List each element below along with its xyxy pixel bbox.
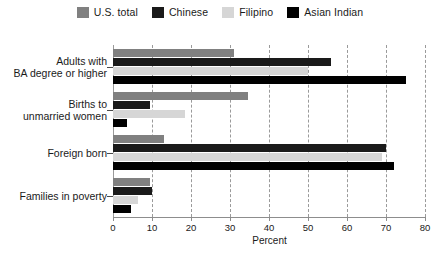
- bar[interactable]: [113, 196, 138, 204]
- legend-item[interactable]: Filipino: [222, 6, 273, 18]
- x-tick-label: 80: [420, 222, 431, 233]
- bar-row: [113, 58, 425, 66]
- x-tick: [230, 217, 231, 221]
- plot-area: [113, 45, 425, 217]
- category-label: Adults with BA degree or higher: [4, 55, 107, 79]
- bar-row: [113, 205, 425, 213]
- legend-swatch-icon: [77, 7, 89, 18]
- x-tick-label: 60: [342, 222, 353, 233]
- bar-groups: [113, 45, 425, 217]
- legend-item[interactable]: Asian Indian: [287, 6, 363, 18]
- chart-container: U.S. totalChineseFilipinoAsian Indian Ad…: [0, 0, 440, 259]
- bar-row: [113, 76, 425, 84]
- bar[interactable]: [113, 135, 164, 143]
- legend-label: Asian Indian: [304, 6, 363, 18]
- bar[interactable]: [113, 67, 308, 75]
- x-tick: [347, 217, 348, 221]
- x-tick-label: 70: [381, 222, 392, 233]
- bar-row: [113, 153, 425, 161]
- bar[interactable]: [113, 187, 152, 195]
- x-tick: [269, 217, 270, 221]
- x-axis-title: Percent: [113, 235, 426, 246]
- bar[interactable]: [113, 76, 406, 84]
- bar-row: [113, 67, 425, 75]
- x-tick: [425, 217, 426, 221]
- legend-item[interactable]: U.S. total: [77, 6, 138, 18]
- bar[interactable]: [113, 119, 127, 127]
- bar[interactable]: [113, 49, 234, 57]
- bar[interactable]: [113, 110, 185, 118]
- legend-label: Filipino: [239, 6, 273, 18]
- x-tick-label: 40: [264, 222, 275, 233]
- legend-label: Chinese: [169, 6, 208, 18]
- category-label: Foreign born: [4, 147, 107, 159]
- legend-swatch-icon: [152, 7, 164, 18]
- bar-row: [113, 178, 425, 186]
- bar[interactable]: [113, 144, 386, 152]
- bar[interactable]: [113, 162, 394, 170]
- legend-swatch-icon: [222, 7, 234, 18]
- bar[interactable]: [113, 101, 150, 109]
- bar-row: [113, 144, 425, 152]
- category-label: Families in poverty: [4, 190, 107, 202]
- category-axis-labels: Adults with BA degree or higherBirths to…: [0, 45, 107, 217]
- x-tick-label: 20: [186, 222, 197, 233]
- bar-row: [113, 101, 425, 109]
- x-tick-label: 50: [303, 222, 314, 233]
- legend-swatch-icon: [287, 7, 299, 18]
- bar[interactable]: [113, 178, 150, 186]
- bar[interactable]: [113, 153, 382, 161]
- bar-row: [113, 119, 425, 127]
- x-tick-label: 10: [147, 222, 158, 233]
- x-tick: [152, 217, 153, 221]
- chart-legend: U.S. totalChineseFilipinoAsian Indian: [0, 6, 440, 18]
- x-tick: [308, 217, 309, 221]
- bar-group: [113, 178, 425, 214]
- x-tick: [113, 217, 114, 221]
- legend-label: U.S. total: [94, 6, 138, 18]
- x-tick: [191, 217, 192, 221]
- bar-row: [113, 92, 425, 100]
- category-label: Births to unmarried women: [4, 98, 107, 122]
- bar[interactable]: [113, 58, 331, 66]
- bar-row: [113, 187, 425, 195]
- bar-group: [113, 49, 425, 85]
- x-tick-label: 0: [110, 222, 115, 233]
- bar-row: [113, 162, 425, 170]
- gridline: [425, 45, 427, 217]
- bar-group: [113, 92, 425, 128]
- x-tick: [386, 217, 387, 221]
- bar-row: [113, 135, 425, 143]
- bar-row: [113, 110, 425, 118]
- bar-group: [113, 135, 425, 171]
- bar-row: [113, 49, 425, 57]
- bar-row: [113, 196, 425, 204]
- legend-item[interactable]: Chinese: [152, 6, 208, 18]
- x-tick-label: 30: [225, 222, 236, 233]
- bar[interactable]: [113, 92, 248, 100]
- bar[interactable]: [113, 205, 131, 213]
